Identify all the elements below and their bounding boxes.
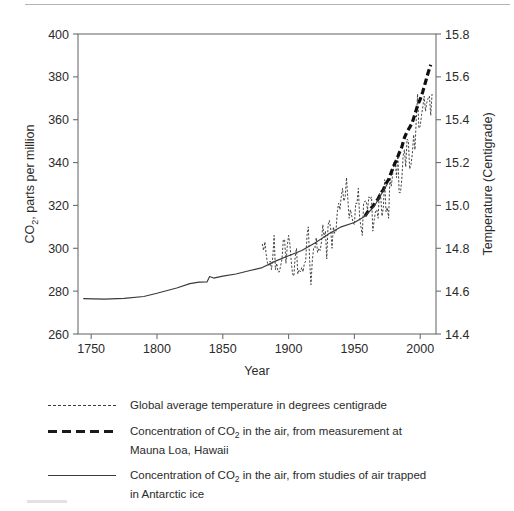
legend-swatch-solid: [48, 468, 116, 483]
legend-item: Concentration of CO2 in the air, from me…: [0, 424, 514, 457]
y-tick-label-left: 260: [48, 328, 69, 342]
series-path-2: [83, 184, 387, 299]
y-tick-label-left: 380: [48, 70, 69, 84]
y-tick-label-right: 15.4: [445, 113, 469, 127]
bottom-page-mark: [27, 500, 67, 503]
legend-swatch-fine-dashed: [48, 398, 116, 413]
legend-line-sample: [48, 475, 116, 476]
y-tick-label-left: 400: [48, 28, 69, 42]
y-tick-label-left: 360: [48, 113, 69, 127]
x-tick-label: 1850: [209, 342, 237, 356]
y-tick-label-right: 14.4: [445, 328, 469, 342]
y-axis-title-right: Temperature (Centigrade): [481, 112, 495, 255]
series-path-1: [365, 65, 431, 216]
x-tick-label: 1750: [77, 342, 105, 356]
legend-label: Concentration of CO2 in the air, from me…: [130, 424, 402, 457]
x-tick-label: 1950: [340, 342, 368, 356]
y-tick-label-right: 14.8: [445, 242, 469, 256]
y-tick-label-right: 15.0: [445, 199, 469, 213]
data-series-layer: [83, 65, 432, 299]
axis-titles: YearCO2, parts per millionTemperature (C…: [23, 112, 495, 378]
x-axis-ticks: 175018001850190019502000: [77, 334, 434, 356]
x-tick-label: 2000: [406, 342, 434, 356]
y-tick-label-right: 15.2: [445, 156, 469, 170]
legend-line-sample: [48, 405, 116, 406]
x-tick-label: 1900: [275, 342, 303, 356]
y-tick-label-right: 14.6: [445, 285, 469, 299]
y-tick-label-left: 300: [48, 242, 69, 256]
legend-item: Concentration of CO2 in the air, from st…: [0, 468, 514, 501]
chart-legend: Global average temperature in degrees ce…: [0, 398, 514, 511]
x-axis-title: Year: [244, 364, 269, 378]
legend-line-sample: [48, 430, 116, 433]
y-tick-label-left: 280: [48, 285, 69, 299]
legend-label: Global average temperature in degrees ce…: [130, 398, 387, 413]
y-axis-right-ticks: 14.414.614.815.015.215.415.615.8: [436, 28, 469, 342]
y-tick-label-left: 340: [48, 156, 69, 170]
y-axis-title-left: CO2, parts per million: [23, 124, 40, 243]
legend-swatch-bold-dashed: [48, 424, 116, 439]
y-tick-label-left: 320: [48, 199, 69, 213]
x-tick-label: 1800: [143, 342, 171, 356]
plot-frame: [78, 34, 436, 334]
legend-item: Global average temperature in degrees ce…: [0, 398, 514, 413]
co2-temperature-chart: 260280300320340360380400 14.414.614.815.…: [0, 0, 514, 390]
y-tick-label-right: 15.8: [445, 28, 469, 42]
y-axis-left-ticks: 260280300320340360380400: [48, 28, 78, 342]
legend-label: Concentration of CO2 in the air, from st…: [130, 468, 426, 501]
y-tick-label-right: 15.6: [445, 70, 469, 84]
